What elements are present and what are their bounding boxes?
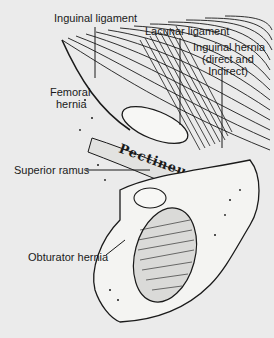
label-femoral-hernia-1: Femoral bbox=[50, 86, 90, 98]
label-inguinal-hernia-2: (direct and bbox=[193, 53, 263, 65]
label-inguinal-hernia-3: Indirect) bbox=[193, 65, 263, 77]
label-inguinal-hernia-1: Inguinal hernia bbox=[193, 41, 263, 53]
label-femoral-hernia-2: hernia bbox=[56, 98, 87, 110]
label-obturator-hernia: Obturator hernia bbox=[28, 251, 108, 263]
label-superior-ramus: Superior ramus bbox=[14, 164, 89, 176]
label-lacunar-ligament: Lacunar ligament bbox=[145, 25, 229, 37]
superior-ramus-sac bbox=[134, 188, 166, 208]
label-inguinal-ligament: Inguinal ligament bbox=[54, 12, 137, 24]
